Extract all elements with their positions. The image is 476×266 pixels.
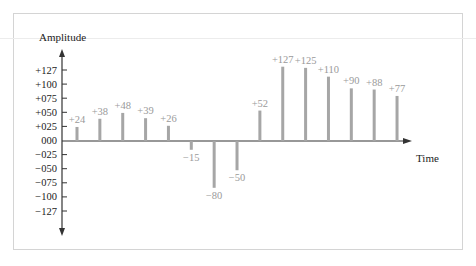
stem-bar (144, 118, 147, 141)
stem-chart: +127+100+075+050+025000−025−050−075−100−… (0, 0, 476, 266)
stem-value-label: +88 (366, 77, 382, 88)
stem-value-label: +127 (272, 54, 294, 65)
stem-value-label: +38 (92, 106, 108, 117)
stem-bar (167, 126, 170, 141)
stem-bar (350, 88, 353, 141)
stem-bar (327, 77, 330, 141)
stem-value-label: +125 (295, 55, 317, 66)
y-tick-label: −075 (35, 177, 57, 188)
y-tick-label: −050 (35, 163, 57, 174)
stem-value-label: +110 (318, 64, 339, 75)
stem-bar (373, 90, 376, 141)
stem-value-label: +39 (137, 105, 153, 116)
stem-bar (258, 111, 261, 141)
y-axis-down-arrow-icon (59, 228, 65, 236)
stem-bar (304, 68, 307, 141)
stem-bar (190, 141, 193, 150)
stem-value-label: −15 (183, 152, 199, 163)
y-tick-label: 000 (41, 135, 57, 146)
stem-value-label: +24 (69, 114, 86, 125)
y-tick-label: −025 (35, 149, 57, 160)
stem-bar (281, 67, 284, 141)
y-tick-label: −127 (35, 206, 57, 217)
stem-bar (98, 119, 101, 141)
y-tick-label: +127 (35, 65, 57, 76)
stem-bar (213, 141, 216, 188)
y-tick-label: +075 (35, 93, 57, 104)
stem-bar (236, 141, 239, 170)
y-tick-label: −100 (35, 191, 57, 202)
x-axis-label: Time (416, 152, 439, 164)
y-tick-label: +025 (35, 121, 57, 132)
stem-value-label: +48 (115, 100, 131, 111)
x-axis-right-arrow-icon (403, 138, 412, 144)
stem-value-label: +90 (343, 75, 359, 86)
stem-bar (396, 96, 399, 141)
stem-bar (121, 113, 124, 141)
stem-value-label: +77 (389, 83, 405, 94)
stem-value-label: +26 (160, 113, 176, 124)
stem-value-label: +52 (252, 98, 268, 109)
stem-bar (76, 127, 79, 141)
y-axis-label: Amplitude (39, 31, 86, 43)
stem-value-label: −80 (206, 190, 222, 201)
y-tick-label: +100 (35, 79, 57, 90)
stem-value-label: −50 (229, 172, 245, 183)
bars: +24+38+48+39+26−15−80−50+52+127+125+110+… (69, 54, 405, 201)
y-tick-label: +050 (35, 107, 57, 118)
y-axis-up-arrow-icon (59, 49, 65, 57)
